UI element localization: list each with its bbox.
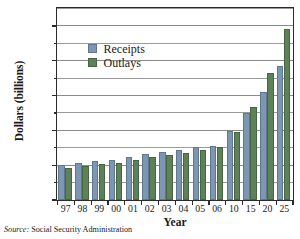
bar-receipts-03 (159, 152, 165, 200)
bar-group (175, 8, 192, 200)
y-axis-title: Dollars (billions) (13, 21, 25, 181)
legend-item-outlays: Outlays (88, 56, 145, 69)
legend-item-receipts: Receipts (88, 42, 145, 55)
bar-group (208, 8, 225, 200)
legend-swatch-receipts (88, 44, 97, 53)
legend-label-outlays: Outlays (104, 57, 141, 69)
bar-group (74, 8, 91, 200)
bar-receipts-99 (92, 161, 98, 200)
bar-receipts-10 (227, 131, 233, 200)
bar-receipts-01 (126, 157, 132, 201)
bar-receipts-25 (277, 66, 283, 200)
source-prefix: Source: (4, 225, 29, 234)
bar-receipts-05 (193, 147, 199, 200)
bar-receipts-20 (260, 92, 266, 200)
bar-receipts-98 (75, 163, 81, 200)
bar-receipts-02 (142, 154, 148, 200)
bar-receipts-00 (109, 160, 115, 200)
bar-outlays-02 (149, 157, 155, 200)
bar-group (192, 8, 209, 200)
source-caption: Source: Social Security Administration (4, 226, 132, 234)
bar-outlays-25 (284, 29, 290, 200)
bar-outlays-03 (166, 155, 172, 200)
y-tick-minor (54, 147, 57, 148)
legend-label-receipts: Receipts (104, 43, 145, 55)
y-tick-minor (54, 78, 57, 79)
bar-outlays-97 (65, 168, 71, 200)
y-tick (52, 60, 57, 61)
bar-outlays-98 (82, 166, 88, 200)
bar-group (225, 8, 242, 200)
y-tick-minor (54, 182, 57, 183)
bar-outlays-06 (217, 147, 223, 200)
bar-group (124, 8, 141, 200)
bar-group (276, 8, 293, 200)
x-tick-label: 25 (271, 204, 297, 214)
bar-group (259, 8, 276, 200)
bar-receipts-97 (58, 165, 64, 200)
bar-group (141, 8, 158, 200)
bar-outlays-99 (99, 164, 105, 200)
bar-group (91, 8, 108, 200)
bar-receipts-06 (210, 146, 216, 200)
bar-outlays-15 (250, 107, 256, 200)
bar-outlays-20 (267, 73, 273, 200)
bar-group (107, 8, 124, 200)
bar-group (158, 8, 175, 200)
bar-receipts-04 (176, 150, 182, 200)
bar-outlays-01 (133, 160, 139, 200)
legend: Receipts Outlays (88, 42, 145, 70)
bar-group (242, 8, 259, 200)
y-tick-minor (54, 43, 57, 44)
chart-figure: Dollars (billions) 0$400$800$1200$1600$2… (0, 0, 300, 239)
bar-receipts-15 (243, 113, 249, 200)
y-tick-minor (54, 112, 57, 113)
y-tick (52, 95, 57, 96)
bar-outlays-10 (234, 132, 240, 200)
source-agency: Social Security Administration (31, 225, 132, 234)
bar-outlays-05 (200, 150, 206, 200)
bar-group (57, 8, 74, 200)
bar-outlays-04 (183, 153, 189, 200)
y-tick (52, 25, 57, 26)
bar-series-container (57, 8, 293, 200)
y-tick (52, 165, 57, 166)
y-tick (52, 130, 57, 131)
plot-area (56, 7, 294, 201)
legend-swatch-outlays (88, 58, 97, 67)
bar-outlays-00 (116, 163, 122, 200)
